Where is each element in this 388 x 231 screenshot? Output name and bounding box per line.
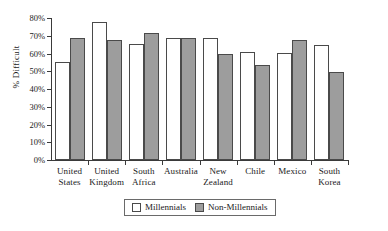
bar-1-5 [255,65,270,160]
y-axis-tick-label: 70% [0,32,45,41]
legend-label: Millennials [145,202,186,212]
y-axis-tick-label: 0% [0,156,45,165]
y-axis-tick-label: 80% [0,14,45,23]
y-axis-tick-label: 60% [0,50,45,59]
legend-swatch-icon [195,203,204,212]
bar-0-5 [240,52,255,160]
legend-entry-0: Millennials [132,202,186,212]
chart-legend: MillennialsNon-Millennials [124,199,276,216]
y-axis-tick-label: 50% [0,67,45,76]
x-axis-tick [88,161,89,165]
bar-1-6 [292,40,307,160]
plot-area [51,18,348,160]
x-axis-tick [237,161,238,165]
y-axis-tick [47,160,52,161]
x-axis-category-label: South Korea [307,166,352,187]
bar-0-1 [92,22,107,160]
bar-1-2 [144,33,159,160]
y-axis-tick-label: 40% [0,85,45,94]
bar-1-4 [218,54,233,160]
bar-0-7 [314,45,329,160]
legend-label: Non-Millennials [208,202,268,212]
bar-1-0 [70,38,85,160]
bar-1-7 [329,72,344,160]
bar-chart: % Difficult 0%10%20%30%40%50%60%70%80% U… [0,0,388,231]
legend-entry-1: Non-Millennials [195,202,268,212]
bar-1-3 [181,38,196,160]
bar-0-3 [166,38,181,160]
y-axis-tick-label: 20% [0,121,45,130]
bar-0-4 [203,38,218,160]
y-axis-tick-label: 10% [0,138,45,147]
bar-0-0 [55,62,70,160]
x-axis-tick [274,161,275,165]
bar-1-1 [107,40,122,160]
y-axis-tick-label: 30% [0,103,45,112]
x-axis-tick [162,161,163,165]
x-axis-tick [200,161,201,165]
x-axis-tick [311,161,312,165]
bar-0-2 [129,44,144,160]
bar-0-6 [277,53,292,160]
x-axis-tick [125,161,126,165]
legend-swatch-icon [132,203,141,212]
x-axis-tick [348,161,349,165]
